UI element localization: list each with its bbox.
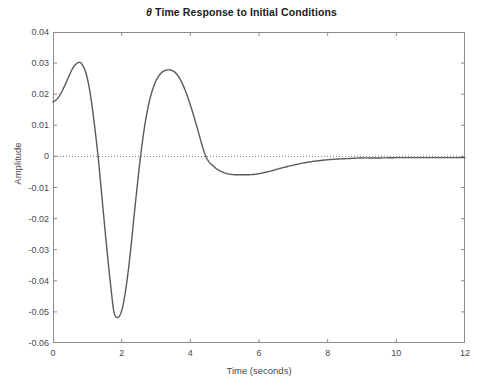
x-tick-label: 2	[119, 348, 124, 358]
x-axis-label: Time (seconds)	[53, 365, 465, 376]
figure-container: θ Time Response to Initial Conditions 0.…	[0, 0, 483, 390]
x-tick-label: 6	[256, 348, 261, 358]
y-axis-label: Amplitude	[12, 119, 23, 209]
x-tick-label: 10	[391, 348, 401, 358]
x-tick-label: 4	[188, 348, 193, 358]
x-axis-tick-labels: 024681012	[0, 0, 483, 390]
x-tick-label: 8	[325, 348, 330, 358]
x-tick-label: 0	[50, 348, 55, 358]
x-tick-label: 12	[460, 348, 470, 358]
